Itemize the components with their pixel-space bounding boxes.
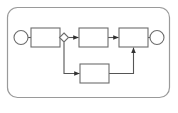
start-event-node[interactable] — [14, 31, 28, 45]
pool-boundary — [8, 8, 170, 98]
task-1-node[interactable] — [31, 28, 60, 47]
diagram-canvas — [0, 0, 178, 113]
task-2-node[interactable] — [79, 28, 108, 47]
process-diagram — [0, 0, 178, 113]
end-event-node[interactable] — [150, 31, 164, 45]
task-3-node[interactable] — [119, 28, 148, 47]
task-4-node[interactable] — [80, 64, 109, 83]
